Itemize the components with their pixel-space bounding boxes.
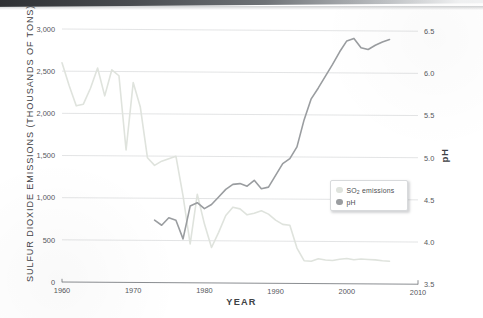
legend-item-ph[interactable]: pH xyxy=(336,196,403,208)
x-tick-label: 1980 xyxy=(188,286,220,295)
gridline xyxy=(62,29,418,31)
x-axis-title: YEAR xyxy=(0,297,483,307)
y-left-tick-label: 500 xyxy=(22,236,55,245)
y-left-tick-label: 2,500 xyxy=(22,67,55,76)
x-tick-label: 1990 xyxy=(260,287,292,296)
gridline xyxy=(62,240,418,242)
y-left-tick-label: 3,000 xyxy=(22,25,55,34)
x-tick-label: 1960 xyxy=(46,286,78,295)
legend-swatch-ph-icon xyxy=(336,199,343,206)
axis-lines xyxy=(62,282,418,284)
y-left-tick-label: 1,500 xyxy=(22,151,55,160)
y-left-tick-label: 2,000 xyxy=(22,109,55,118)
y-right-tick-label: 6.0 xyxy=(424,69,448,78)
x-axis-line xyxy=(62,282,418,284)
gridline xyxy=(62,156,418,158)
chart-figure: SULFUR DIOXIDE EMISSIONS (THOUSANDS OF T… xyxy=(0,0,483,318)
chart-legend[interactable]: SO2 emissionspH xyxy=(330,180,408,211)
y-right-tick-label: 4.0 xyxy=(424,238,448,247)
legend-swatch-so2-emissions-icon xyxy=(336,187,343,194)
y-right-tick-label: 4.5 xyxy=(424,196,448,205)
legend-label-so2-emissions: SO2 emissions xyxy=(347,187,395,194)
x-tick-label: 1970 xyxy=(117,286,149,295)
y-left-tick-label: 1,000 xyxy=(22,193,55,202)
series-line-so2-emissions xyxy=(62,63,390,262)
y-right-tick-label: 6.5 xyxy=(424,27,448,36)
y-right-tick-label: 5.0 xyxy=(424,154,448,163)
plot-canvas xyxy=(0,0,483,318)
x-tick-label: 2000 xyxy=(331,287,363,296)
legend-label-ph: pH xyxy=(347,199,356,206)
y-right-tick-label: 5.5 xyxy=(424,111,448,120)
gridline xyxy=(62,113,418,115)
series-lines xyxy=(62,38,390,261)
x-tick-label: 2010 xyxy=(402,288,434,297)
legend-item-so2-emissions[interactable]: SO2 emissions xyxy=(336,184,403,196)
